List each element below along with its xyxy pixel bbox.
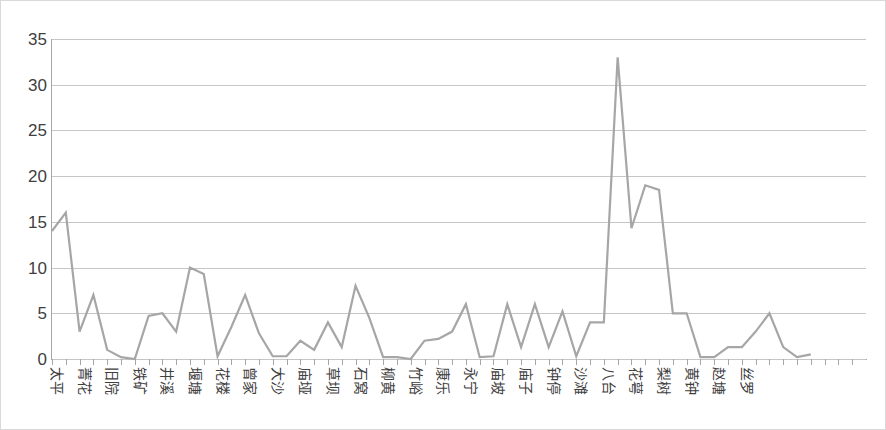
x-tick <box>162 359 163 365</box>
x-tick-label: 柳黄 <box>381 367 395 395</box>
x-tick-label: 大沙 <box>271 367 285 395</box>
x-tick <box>356 359 357 365</box>
x-tick-label: 井溪 <box>160 367 174 395</box>
x-tick <box>562 359 563 365</box>
x-tick <box>852 359 853 365</box>
x-tick <box>687 359 688 365</box>
x-tick-label: 沙滩 <box>574 367 588 395</box>
x-tick <box>618 359 619 365</box>
x-tick <box>549 359 550 365</box>
x-tick-label: 黄钟 <box>685 367 699 395</box>
x-tick <box>700 359 701 365</box>
y-tick-label-5: 5 <box>5 305 47 322</box>
x-tick <box>838 359 839 365</box>
x-tick <box>314 359 315 365</box>
x-tick <box>576 359 577 365</box>
y-tick-label-10: 10 <box>5 259 47 276</box>
x-tick <box>590 359 591 365</box>
x-tick-label: 曾家 <box>243 367 257 395</box>
x-tick <box>521 359 522 365</box>
x-tick-label: 竹峪 <box>409 367 423 395</box>
x-tick-label: 草坝 <box>326 367 340 395</box>
y-tick-label-15: 15 <box>5 213 47 230</box>
x-tick <box>66 359 67 365</box>
x-tick <box>287 359 288 365</box>
y-tick-label-25: 25 <box>5 122 47 139</box>
x-tick-label: 庙子 <box>519 367 533 395</box>
x-tick <box>769 359 770 365</box>
x-tick <box>452 359 453 365</box>
x-tick <box>383 359 384 365</box>
x-tick <box>535 359 536 365</box>
x-tick <box>218 359 219 365</box>
x-tick <box>411 359 412 365</box>
x-tick-label: 赵塘 <box>712 367 726 395</box>
x-tick <box>149 359 150 365</box>
y-tick-label-20: 20 <box>5 168 47 185</box>
x-tick <box>438 359 439 365</box>
line-chart: 05101520253035 太平菁花旧院铁矿井溪堰塘花楼曾家大沙庙垭草坝石窝柳… <box>0 0 886 430</box>
x-tick <box>369 359 370 365</box>
data-series-line <box>52 39 866 359</box>
plot-area <box>52 39 866 359</box>
x-tick-label: 铁矿 <box>133 367 147 395</box>
x-tick-label: 梨树 <box>657 367 671 395</box>
x-tick <box>259 359 260 365</box>
x-tick-label: 花楼 <box>216 367 230 395</box>
x-tick <box>714 359 715 365</box>
x-tick-label: 旧院 <box>105 367 119 395</box>
x-tick <box>783 359 784 365</box>
x-tick <box>135 359 136 365</box>
x-tick <box>204 359 205 365</box>
x-tick-label: 菁花 <box>78 367 92 395</box>
x-tick <box>425 359 426 365</box>
y-tick-label-0: 0 <box>5 351 47 368</box>
x-tick <box>107 359 108 365</box>
x-tick <box>480 359 481 365</box>
x-tick-label: 庙坡 <box>491 367 505 395</box>
y-tick-label-35: 35 <box>5 31 47 48</box>
x-tick <box>93 359 94 365</box>
x-tick-label: 庙垭 <box>298 367 312 395</box>
x-tick <box>342 359 343 365</box>
x-tick <box>507 359 508 365</box>
x-tick-label: 花萼 <box>629 367 643 395</box>
x-tick-label: 永宁 <box>464 367 478 395</box>
x-tick <box>176 359 177 365</box>
x-tick <box>466 359 467 365</box>
x-tick <box>190 359 191 365</box>
x-tick <box>300 359 301 365</box>
x-tick <box>825 359 826 365</box>
x-tick <box>659 359 660 365</box>
y-axis-labels: 05101520253035 <box>1 1 47 430</box>
x-tick <box>673 359 674 365</box>
gridline-0 <box>52 359 866 360</box>
x-tick <box>797 359 798 365</box>
x-tick <box>273 359 274 365</box>
x-tick-label: 丝罗 <box>740 367 754 395</box>
x-tick-label: 石窝 <box>354 367 368 395</box>
x-tick <box>728 359 729 365</box>
x-tick <box>493 359 494 365</box>
x-tick <box>328 359 329 365</box>
x-tick <box>52 359 53 365</box>
x-tick <box>631 359 632 365</box>
x-tick <box>645 359 646 365</box>
x-tick-label: 钟停 <box>547 367 561 395</box>
x-tick <box>604 359 605 365</box>
x-tick <box>756 359 757 365</box>
x-tick <box>231 359 232 365</box>
x-tick <box>397 359 398 365</box>
x-tick-label: 康乐 <box>436 367 450 395</box>
y-tick-label-30: 30 <box>5 76 47 93</box>
x-tick <box>245 359 246 365</box>
x-tick <box>121 359 122 365</box>
series-polyline <box>52 57 811 359</box>
x-tick-label: 堰塘 <box>188 367 202 395</box>
x-tick-label: 八台 <box>602 367 616 395</box>
x-tick <box>742 359 743 365</box>
x-tick-label: 太平 <box>50 367 64 395</box>
x-tick <box>80 359 81 365</box>
x-tick <box>811 359 812 365</box>
